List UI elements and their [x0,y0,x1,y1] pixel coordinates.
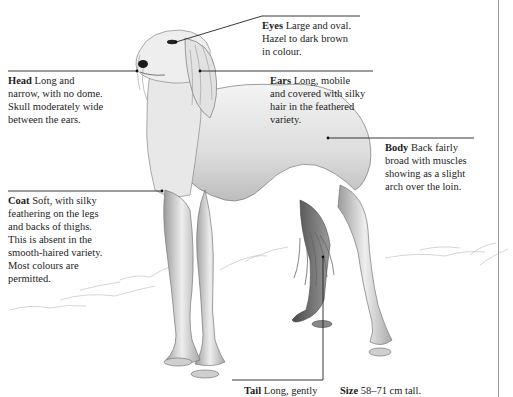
size-line-1: 58–71 cm tall. [361,385,421,396]
head-line-2: narrow, with no dome. [8,88,103,99]
ears-line-2: and covered with silky [270,88,365,99]
ears-line-3: hair in the feathered [270,101,354,112]
body-line-4: arch over the loin. [385,181,461,192]
annotation-eyes: Eyes Large and oval. Hazel to dark brown… [262,19,402,58]
annotation-coat: Coat Soft, with silky feathering on the … [8,194,138,285]
head-title: Head [8,75,32,86]
eyes-title: Eyes [262,20,283,31]
hind-paw-near [369,348,391,356]
body-line-2: broad with muscles [385,155,467,166]
annotation-body: Body Back fairly broad with muscles show… [385,141,495,193]
head-line-3: Skull moderately wide [8,101,103,112]
far-hind-leg [292,200,330,322]
eyes-line-1: Large and oval. [286,20,351,31]
coat-line-7: permitted. [8,273,51,284]
coat-line-4: This is absent in the [8,234,92,245]
coat-line-1: Soft, with silky [32,195,96,206]
front-paw-left [164,358,192,366]
hind-paw-far [312,321,332,328]
coat-line-3: and backs of thighs. [8,221,92,232]
coat-title: Coat [8,195,30,206]
head-line-4: between the ears. [8,114,81,125]
dog-nose [138,60,148,68]
ears-line-4: variety. [270,114,301,125]
eyes-line-2: Hazel to dark brown [262,33,348,44]
coat-line-6: Most colours are [8,260,79,271]
near-hind-leg [338,185,392,345]
near-front-leg [164,190,200,363]
tail-line-1: Long, gently [264,385,318,396]
tail-title: Tail [244,385,261,396]
page-margin-rule [498,0,499,397]
far-front-leg [195,190,225,366]
ears-title: Ears [270,75,291,86]
size-title: Size [340,385,358,396]
tail-leader [232,257,323,380]
annotation-ears: Ears Long, mobile and covered with silky… [270,74,390,126]
annotation-head: Head Long and narrow, with no dome. Skul… [8,74,138,126]
head-line-1: Long and [35,75,75,86]
annotation-tail: Tail Long, gently [244,384,354,397]
body-line-1: Back fairly [411,142,458,153]
front-paw-right [191,370,219,378]
annotation-size: Size 58–71 cm tall. [340,384,480,397]
coat-line-2: feathering on the legs [8,208,99,219]
eyes-line-3: in colour. [262,46,302,57]
coat-line-5: smooth-haired variety. [8,247,102,258]
ears-line-1: Long, mobile [294,75,351,86]
body-line-3: showing as a slight [385,168,465,179]
body-title: Body [385,142,408,153]
